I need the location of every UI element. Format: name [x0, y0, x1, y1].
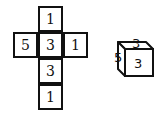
net-cell-bottom: 1: [38, 84, 63, 110]
net-cell-left: 5: [13, 32, 38, 58]
cube-drawing: 3 5 3: [110, 36, 162, 82]
net-cell-below-center: 3: [38, 58, 63, 84]
net-cell-top: 1: [38, 6, 63, 32]
cube-left-label: 5: [114, 50, 122, 65]
net-cell-center: 3: [38, 32, 63, 58]
cube-front-label: 3: [134, 56, 142, 71]
net-cell-right: 1: [63, 32, 88, 58]
cube-top-label: 3: [132, 36, 140, 51]
